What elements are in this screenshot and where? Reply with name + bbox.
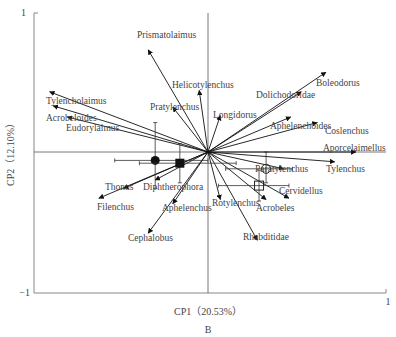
vector-label-diphtherophora: Diphtherophora xyxy=(143,182,204,192)
vector-arrow-cervidellus xyxy=(208,152,289,198)
x-tick-right: 1 xyxy=(386,296,391,307)
vector-label-cephalobus: Cephalobus xyxy=(128,233,173,243)
vector-label-cervidellus: Cervidellus xyxy=(279,186,323,196)
panel-label: B xyxy=(205,324,212,335)
vector-label-rhabditidae: Rhabditidae xyxy=(243,232,289,242)
vector-label-tylenchus: Tylenchus xyxy=(326,164,365,174)
vector-label-aphelenchus: Aphelenchus xyxy=(162,203,212,213)
vector-label-dolichodoridae: Dolichodoridae xyxy=(256,90,315,100)
vector-arrow-tylenchus xyxy=(208,152,335,162)
vector-label-rotylenchus: Rotylenchus xyxy=(212,198,260,208)
vector-label-helicotylenchus: Helicotylenchus xyxy=(172,80,234,90)
y-tick-bottom: −1 xyxy=(19,287,30,298)
vector-label-acrobeloides: Acrobeloides xyxy=(46,113,97,123)
vector-label-paratylenchus: Paratylenchus xyxy=(255,164,309,174)
vector-label-thonus: Thonus xyxy=(105,182,134,192)
x-axis-title: CP1（20.53%） xyxy=(174,306,242,317)
vector-label-pratylenchus: Pratylenchus xyxy=(150,102,199,112)
y-axis-title: CP2（12.10%） xyxy=(5,118,16,186)
vector-labels: PrismatolaimusHelicotylenchusPratylenchu… xyxy=(46,30,386,243)
vector-label-acrobeles: Acrobeles xyxy=(256,203,295,213)
vector-arrow-longidorus xyxy=(208,116,220,152)
sample-points xyxy=(115,123,293,201)
vector-arrow-rotylenchus xyxy=(208,152,220,200)
vector-label-eudorylaimus: Eudorylaimus xyxy=(66,123,120,133)
vector-label-aporcelaimellus: Aporcelaimellus xyxy=(323,143,386,153)
biplot-chart: PrismatolaimusHelicotylenchusPratylenchu… xyxy=(0,0,396,337)
vector-label-boleodorus: Boleodorus xyxy=(316,78,360,88)
y-tick-top: 1 xyxy=(21,7,26,18)
vector-arrow-acrobeles xyxy=(208,152,266,200)
vector-label-coslenchus: Coslenchus xyxy=(325,126,369,136)
vector-label-longidorus: Longidorus xyxy=(213,110,257,120)
vector-label-tylencholaimus: Tylencholaimus xyxy=(46,96,107,106)
vector-label-filenchus: Filenchus xyxy=(97,202,134,212)
vector-arrow-rhabditidae xyxy=(208,152,257,240)
vector-label-aphelenchoides: Aphelenchoides xyxy=(270,121,332,131)
vector-label-prismatolaimus: Prismatolaimus xyxy=(137,30,196,40)
